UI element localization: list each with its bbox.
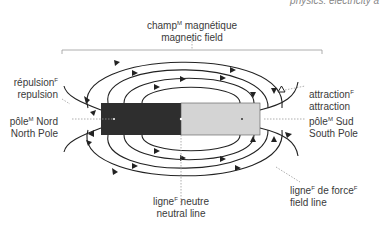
label-north-pole: pôleM Nord North Pole bbox=[4, 113, 58, 140]
field-lines-top bbox=[87, 62, 282, 108]
label-repulsion: répulsionF repulsion bbox=[4, 74, 58, 101]
label-neutral-line: ligneF neutre neutral line bbox=[140, 193, 222, 220]
south-pole-half bbox=[181, 103, 260, 135]
attraction-marker bbox=[278, 86, 285, 92]
label-attraction: attractionF attraction bbox=[309, 86, 354, 113]
label-south-pole: pôleM Sud South Pole bbox=[309, 113, 358, 140]
label-magnetic-field: champM magnétique magnetic field bbox=[140, 17, 244, 44]
label-field-line: ligneF de forceF field line bbox=[290, 182, 357, 209]
